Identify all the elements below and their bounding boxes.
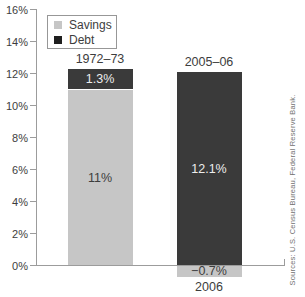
y-axis-line — [36, 9, 37, 266]
y-tick-label: 8% — [0, 131, 28, 145]
source-note: Sources: U.S. Census Bureau, Federal Res… — [288, 95, 297, 286]
value-label: 11% — [58, 170, 142, 186]
y-tick-label: 10% — [0, 99, 28, 113]
x-sublabel: 2006 — [167, 279, 251, 295]
value-label: 1.3% — [58, 71, 142, 87]
plot-area: 0%2%4%6%8%10%12%14%16%11%1.3%1972–73−0.7… — [0, 0, 305, 297]
x-baseline-end-tick — [284, 259, 285, 266]
legend: Savings Debt — [47, 15, 117, 49]
legend-item-debt: Debt — [54, 34, 116, 46]
legend-label-savings: Savings — [69, 19, 112, 31]
legend-item-savings: Savings — [54, 19, 116, 31]
savings-swatch-icon — [54, 21, 62, 29]
legend-label-debt: Debt — [69, 34, 94, 46]
y-tick-label: 16% — [0, 3, 28, 17]
category-label: 2005–06 — [167, 54, 251, 70]
bar-chart: 0%2%4%6%8%10%12%14%16%11%1.3%1972–73−0.7… — [0, 0, 305, 297]
y-tick-label: 4% — [0, 195, 28, 209]
debt-swatch-icon — [54, 36, 62, 44]
y-tick-label: 2% — [0, 227, 28, 241]
y-tick-label: 6% — [0, 163, 28, 177]
y-tick-label: 14% — [0, 35, 28, 49]
y-tick-label: 0% — [0, 259, 28, 273]
value-label: −0.7% — [167, 263, 251, 279]
category-label: 1972–73 — [58, 51, 142, 67]
y-tick-label: 12% — [0, 67, 28, 81]
value-label: 12.1% — [167, 161, 251, 177]
